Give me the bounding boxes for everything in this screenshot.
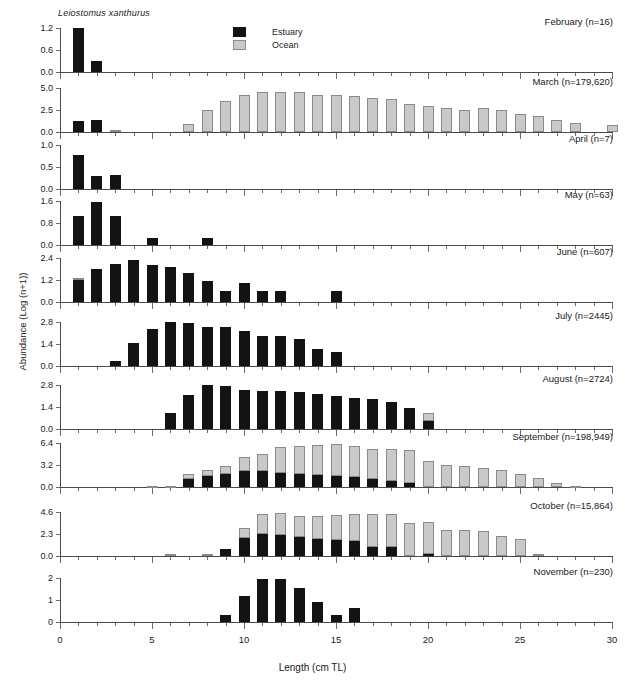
x-tick-30 xyxy=(612,367,613,373)
x-tick-22 xyxy=(465,303,466,306)
x-tick-22 xyxy=(465,488,466,491)
x-tick-5 xyxy=(152,557,153,563)
bar-ocean xyxy=(404,450,415,483)
bar-ocean xyxy=(331,95,342,132)
panel-title-april: April (n=7) xyxy=(569,133,613,144)
bar-ocean xyxy=(423,461,434,487)
x-tick-30 xyxy=(612,73,613,79)
x-tick-4 xyxy=(134,367,135,370)
x-tick-1 xyxy=(78,133,79,136)
bar-estuary xyxy=(202,327,213,366)
x-tick-0 xyxy=(60,488,61,494)
x-tick-0 xyxy=(60,133,61,139)
x-tick-10 xyxy=(244,488,245,494)
panel-x-axis-line xyxy=(60,302,613,303)
x-tick-20 xyxy=(428,190,429,196)
bar-estuary xyxy=(257,579,268,622)
x-tick-25 xyxy=(520,557,521,563)
bar-estuary xyxy=(220,327,231,366)
x-tick-13 xyxy=(299,133,300,136)
legend-item-estuary: Estuary xyxy=(233,26,303,38)
x-tick-23 xyxy=(483,246,484,249)
y-tick-0.0 xyxy=(56,366,60,367)
bar-estuary xyxy=(386,547,397,556)
y-tick-2 xyxy=(56,578,60,579)
x-tick-24 xyxy=(502,367,503,370)
x-tick-14 xyxy=(318,133,319,136)
y-tick-2.8 xyxy=(56,385,60,386)
bar-estuary xyxy=(239,538,250,556)
x-tick-14 xyxy=(318,246,319,249)
x-tick-27 xyxy=(557,488,558,491)
bar-ocean xyxy=(294,446,305,474)
bar-ocean xyxy=(386,449,397,481)
x-tick-1 xyxy=(78,303,79,306)
bar-estuary xyxy=(331,476,342,487)
x-tick-9 xyxy=(226,557,227,560)
x-tick-6 xyxy=(170,488,171,491)
x-tick-18 xyxy=(391,488,392,491)
y-tick-0.0 xyxy=(56,429,60,430)
x-tick-30 xyxy=(612,623,613,629)
x-tick-11 xyxy=(262,557,263,560)
x-tick-3 xyxy=(115,190,116,193)
x-tick-26 xyxy=(538,430,539,433)
x-tick-17 xyxy=(373,190,374,193)
x-tick-29 xyxy=(594,133,595,136)
bar-ocean xyxy=(275,513,286,535)
y-tick-label: 0.0 xyxy=(40,128,53,137)
x-tick-21 xyxy=(446,190,447,193)
bar-ocean xyxy=(220,101,231,132)
x-tick-7 xyxy=(189,73,190,76)
x-tick-19 xyxy=(410,488,411,491)
x-tick-7 xyxy=(189,430,190,433)
x-tick-15 xyxy=(336,73,337,79)
x-tick-15 xyxy=(336,430,337,436)
x-tick-22 xyxy=(465,367,466,370)
x-tick-3 xyxy=(115,557,116,560)
x-tick-22 xyxy=(465,430,466,433)
panel-x-axis-line xyxy=(60,556,613,557)
x-tick-15 xyxy=(336,488,337,494)
panel-title-september: September (n=198,949) xyxy=(512,431,613,442)
bar-estuary xyxy=(423,554,434,556)
bar-ocean xyxy=(496,536,507,556)
x-tick-label-0: 0 xyxy=(57,634,62,645)
x-tick-30 xyxy=(612,190,613,196)
bar-ocean xyxy=(459,466,470,487)
x-tick-label-20: 20 xyxy=(423,634,434,645)
x-tick-2 xyxy=(97,303,98,306)
x-tick-9 xyxy=(226,623,227,626)
x-tick-10 xyxy=(244,246,245,252)
x-tick-22 xyxy=(465,246,466,249)
x-tick-6 xyxy=(170,367,171,370)
bar-ocean xyxy=(165,486,176,488)
bar-ocean xyxy=(257,92,268,132)
x-tick-19 xyxy=(410,367,411,370)
x-tick-18 xyxy=(391,246,392,249)
x-tick-5 xyxy=(152,430,153,436)
x-tick-8 xyxy=(207,190,208,193)
x-tick-13 xyxy=(299,623,300,626)
bar-estuary xyxy=(331,540,342,556)
x-tick-10 xyxy=(244,133,245,139)
panel-title-july: July (n=2445) xyxy=(555,310,613,321)
y-tick-label: 2.3 xyxy=(40,530,53,539)
bar-estuary xyxy=(239,283,250,302)
x-tick-15 xyxy=(336,303,337,309)
month-panel-march: 0.02.55.0March (n=179,620) xyxy=(0,0,625,685)
x-tick-28 xyxy=(575,190,576,193)
x-tick-17 xyxy=(373,623,374,626)
bar-estuary xyxy=(367,479,378,487)
x-tick-20 xyxy=(428,557,429,563)
bar-estuary xyxy=(73,216,84,245)
bar-ocean xyxy=(294,92,305,132)
x-tick-2 xyxy=(97,367,98,370)
y-tick-1.4 xyxy=(56,344,60,345)
x-tick-28 xyxy=(575,73,576,76)
y-tick-0.0 xyxy=(56,245,60,246)
bar-estuary xyxy=(220,549,231,556)
panel-y-axis-line xyxy=(60,443,61,488)
bar-ocean xyxy=(515,474,526,487)
y-tick-0.0 xyxy=(56,72,60,73)
